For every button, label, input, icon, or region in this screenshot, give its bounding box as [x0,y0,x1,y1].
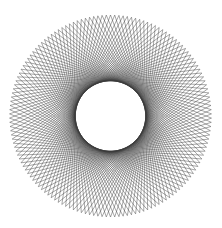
string-art-figure [0,0,222,228]
chord-circle-pattern [0,0,222,228]
chord-lines [10,15,212,217]
